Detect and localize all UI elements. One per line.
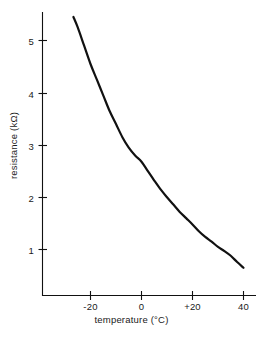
y-axis-title: resistance (kΩ)	[8, 86, 19, 206]
x-tick-label-minus20: -20	[83, 301, 97, 312]
x-axis-title: temperature (°C)	[0, 314, 263, 325]
y-tick-label-3: 3	[20, 140, 34, 151]
y-tick-label-2: 2	[20, 192, 34, 203]
x-tick-label-plus20: +20	[184, 301, 201, 312]
x-tick-label-0: 0	[139, 301, 144, 312]
thermistor-resistance-chart: 5 4 3 2 1 -20 0 +20 40 temperature (°C) …	[0, 0, 263, 337]
x-tick-label-40: 40	[238, 301, 249, 312]
y-tick-label-1: 1	[20, 244, 34, 255]
y-tick-label-5: 5	[20, 35, 34, 46]
plot-area	[0, 0, 263, 337]
y-tick-label-4: 4	[20, 88, 34, 99]
resistance-curve	[73, 17, 243, 268]
